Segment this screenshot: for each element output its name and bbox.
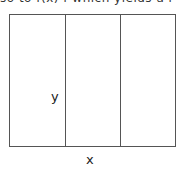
x-dimension-label: x (86, 153, 94, 166)
strip-divider-1 (65, 15, 66, 146)
outer-rectangle (9, 14, 176, 147)
strip-divider-2 (120, 15, 121, 146)
y-dimension-label: y (51, 90, 59, 103)
cropped-text-fragment: so to f(x) f which yields a r (0, 0, 181, 4)
